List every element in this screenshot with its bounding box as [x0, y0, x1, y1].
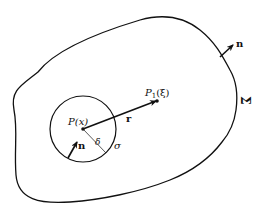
point-p1-label: P1(ξ) [144, 87, 170, 100]
region-boundary [13, 17, 237, 203]
inner-normal-arrow [68, 142, 77, 158]
radius-delta-label: δ [95, 137, 100, 147]
diagram-canvas: P(x) P1(ξ) r δ σ n n Σ [0, 0, 261, 213]
outer-normal-arrow [220, 45, 233, 57]
point-p-label: P(x) [67, 116, 88, 127]
region-sigma-label: Σ [238, 96, 252, 104]
sphere-sigma-label: σ [114, 140, 122, 151]
vector-r-label: r [126, 113, 132, 124]
outer-normal-label: n [236, 38, 244, 49]
inner-normal-label: n [78, 140, 86, 151]
diagram: P(x) P1(ξ) r δ σ n n Σ [0, 0, 261, 213]
vector-r-arrow [83, 101, 156, 129]
point-p [81, 127, 85, 131]
